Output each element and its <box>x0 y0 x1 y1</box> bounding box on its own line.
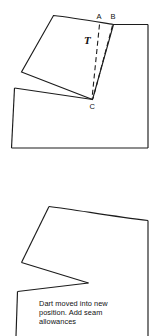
upper-pattern-diagram: A B C T <box>12 12 149 149</box>
label-point-c: C <box>90 102 96 111</box>
lower-left-upper-seam <box>22 207 50 263</box>
label-pivot-marker-t: T <box>84 34 92 46</box>
pattern-diagram-svg: A B C T <box>0 0 157 336</box>
rotated-panel-outline <box>22 16 114 100</box>
lower-dart-leg-lower <box>18 283 89 292</box>
lower-top-edge <box>49 207 148 221</box>
lower-diagram-caption: Dart moved into new position. Add seam a… <box>39 299 139 327</box>
lower-dart-leg-upper <box>22 263 89 284</box>
upper-left-side-seam <box>12 88 15 148</box>
caption-line-1: Dart moved into new <box>39 299 139 308</box>
pattern-diagram-figure: A B C T Dart moved into new position. Ad… <box>0 0 157 336</box>
lower-left-side-seam <box>16 292 18 336</box>
label-point-a: A <box>97 12 102 21</box>
caption-line-2: position. Add seam <box>39 308 139 317</box>
caption-line-3: allowances <box>39 317 139 326</box>
label-point-b: B <box>111 12 116 21</box>
open-dart-leg-lower <box>15 88 93 100</box>
